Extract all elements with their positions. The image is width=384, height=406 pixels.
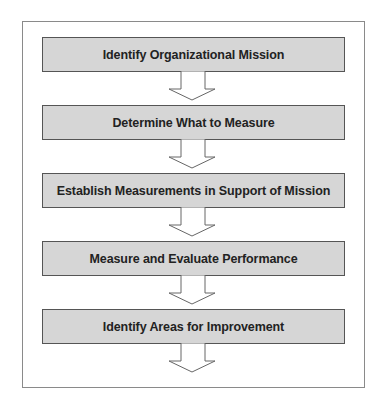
step-label: Identify Organizational Mission bbox=[103, 48, 285, 62]
step-label: Establish Measurements in Support of Mis… bbox=[57, 184, 330, 198]
step-establish-measurements: Establish Measurements in Support of Mis… bbox=[42, 173, 345, 208]
step-label: Identify Areas for Improvement bbox=[103, 320, 284, 334]
step-determine-measure: Determine What to Measure bbox=[42, 105, 345, 140]
step-identify-improvement: Identify Areas for Improvement bbox=[42, 309, 345, 344]
step-identify-mission: Identify Organizational Mission bbox=[42, 37, 345, 72]
step-label: Determine What to Measure bbox=[112, 116, 274, 130]
down-arrow-icon bbox=[167, 71, 217, 101]
step-measure-evaluate: Measure and Evaluate Performance bbox=[42, 241, 345, 276]
down-arrow-icon bbox=[167, 275, 217, 305]
down-arrow-icon bbox=[167, 207, 217, 237]
down-arrow-icon bbox=[167, 139, 217, 169]
step-label: Measure and Evaluate Performance bbox=[89, 252, 297, 266]
down-arrow-icon bbox=[167, 343, 217, 373]
